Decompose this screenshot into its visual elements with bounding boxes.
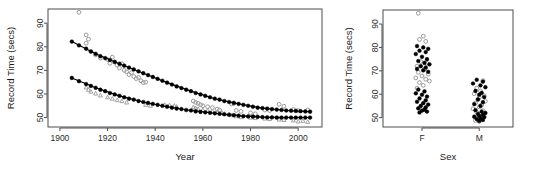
- fitted-point: [419, 64, 423, 68]
- fitted-point: [479, 104, 483, 108]
- observed-point: [428, 79, 432, 83]
- fitted-point: [232, 101, 236, 105]
- y-tick-label: 60: [35, 89, 45, 99]
- fitted-point: [84, 82, 88, 86]
- fitted-point: [294, 109, 298, 113]
- fitted-point: [156, 77, 160, 81]
- observed-point: [277, 102, 281, 106]
- observed-point: [125, 100, 129, 104]
- observed-point: [84, 33, 88, 37]
- fitted-point: [477, 119, 481, 123]
- fitted-point: [146, 73, 150, 77]
- fitted-point: [474, 108, 478, 112]
- x-tick-label: 1920: [98, 133, 117, 143]
- fitted-point: [122, 64, 126, 68]
- fitted-point: [70, 40, 74, 44]
- fitted-point: [70, 76, 74, 80]
- fitted-point: [424, 50, 428, 54]
- fitted-point: [222, 99, 226, 103]
- fitted-point: [289, 109, 293, 113]
- fitted-point: [418, 97, 422, 101]
- fitted-point: [308, 110, 312, 114]
- fitted-point: [194, 91, 198, 95]
- fitted-point: [420, 55, 424, 59]
- fitted-point: [415, 100, 419, 104]
- y-axis-title: Record Time (secs): [343, 27, 354, 109]
- fit-curves-group: [72, 42, 310, 118]
- fitted-point: [299, 116, 303, 120]
- fitted-point: [237, 102, 241, 106]
- x-axis-title: Sex: [440, 151, 457, 162]
- fitted-point: [421, 69, 425, 73]
- fitted-point: [261, 106, 265, 110]
- plot-frame: [383, 10, 513, 127]
- observed-point: [144, 80, 148, 84]
- fitted-point: [265, 107, 269, 111]
- fitted-point: [132, 98, 136, 102]
- observed-point: [296, 119, 300, 123]
- fitted-point: [141, 71, 145, 75]
- fitted-point: [108, 58, 112, 62]
- fitted-point: [299, 109, 303, 113]
- y-tick-label: 70: [370, 66, 380, 76]
- x-tick-label: 1940: [146, 133, 165, 143]
- observed-point: [424, 39, 428, 43]
- fitted-point: [118, 94, 122, 98]
- fitted-point: [284, 116, 288, 120]
- fitted-point: [208, 111, 212, 115]
- fitted-point: [84, 47, 88, 51]
- fitted-point: [132, 68, 136, 72]
- observed-point: [77, 10, 81, 14]
- fitted-point: [189, 109, 193, 113]
- x-tick-label: 1900: [50, 133, 69, 143]
- fitted-point: [423, 90, 427, 94]
- observed-points-group: [77, 10, 310, 123]
- fitted-point: [425, 95, 429, 99]
- fitted-point: [418, 49, 422, 53]
- fitted-point: [261, 115, 265, 119]
- observed-point: [239, 110, 243, 114]
- fitted-point: [474, 89, 478, 93]
- fitted-point: [415, 44, 419, 48]
- observed-point: [84, 41, 88, 45]
- fitted-point: [146, 101, 150, 105]
- y-tick-label: 80: [35, 42, 45, 52]
- fitted-point: [242, 114, 246, 118]
- fitted-point: [194, 110, 198, 114]
- fitted-point: [151, 102, 155, 106]
- fitted-point: [89, 84, 93, 88]
- fitted-point: [471, 82, 475, 86]
- x-tick-label: 1960: [193, 133, 212, 143]
- observed-point: [421, 83, 425, 87]
- fitted-point: [476, 98, 480, 102]
- fitted-point: [426, 70, 430, 74]
- fitted-point: [256, 115, 260, 119]
- fitted-point: [161, 104, 165, 108]
- fitted-point: [103, 89, 107, 93]
- fitted-point: [256, 106, 260, 110]
- fitted-point: [275, 116, 279, 120]
- fitted-point: [180, 107, 184, 111]
- fitted-point: [246, 104, 250, 108]
- fitted-point: [418, 111, 422, 115]
- observed-point: [420, 74, 424, 78]
- fitted-point: [184, 108, 188, 112]
- fitted-point: [227, 113, 231, 117]
- fitted-point: [303, 116, 307, 120]
- fitted-point: [294, 116, 298, 120]
- fitted-point: [184, 88, 188, 92]
- fitted-point: [246, 115, 250, 119]
- y-tick-label: 50: [35, 113, 45, 123]
- y-tick-label: 80: [370, 42, 380, 52]
- fitted-point: [426, 47, 430, 51]
- fitted-point: [416, 59, 420, 63]
- fitted-point: [416, 106, 420, 110]
- sex-stripchart-svg: FM5060708090SexRecord Time (secs): [340, 0, 536, 171]
- fitted-point: [127, 66, 131, 70]
- fitted-point: [122, 95, 126, 99]
- fitted-point: [265, 115, 269, 119]
- fitted-point: [94, 52, 98, 56]
- observed-point: [94, 91, 98, 95]
- panel-sex-stripchart: FM5060708090SexRecord Time (secs): [340, 0, 536, 171]
- observed-point: [87, 37, 91, 41]
